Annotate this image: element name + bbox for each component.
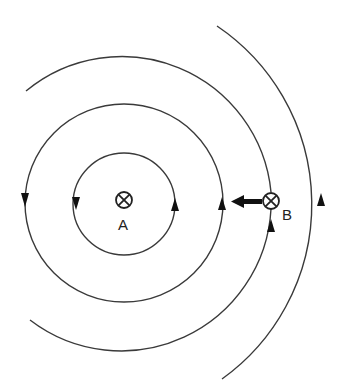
wire-b-label: B bbox=[282, 206, 292, 223]
wire-b-current-into-page-icon bbox=[263, 193, 279, 209]
inner-right-up-arrow-icon bbox=[171, 198, 179, 211]
middle-left-down-arrow-icon bbox=[21, 193, 29, 207]
far-right-field-arc bbox=[217, 26, 312, 379]
wire-a-current-into-page-icon bbox=[116, 192, 132, 208]
far-right-up-arrow-icon bbox=[317, 193, 325, 206]
middle-right-up-arrow-icon bbox=[218, 197, 226, 210]
wire-a-label: A bbox=[118, 216, 128, 233]
force-arrow-left-icon bbox=[231, 195, 262, 208]
outer-up-arrow-icon bbox=[267, 219, 275, 232]
field-diagram: A B bbox=[0, 0, 351, 388]
inner-field-circle bbox=[73, 153, 175, 255]
outer-field-arc-top bbox=[26, 57, 271, 192]
outer-field-arc-bottom bbox=[30, 209, 271, 351]
middle-field-circle bbox=[25, 104, 223, 302]
